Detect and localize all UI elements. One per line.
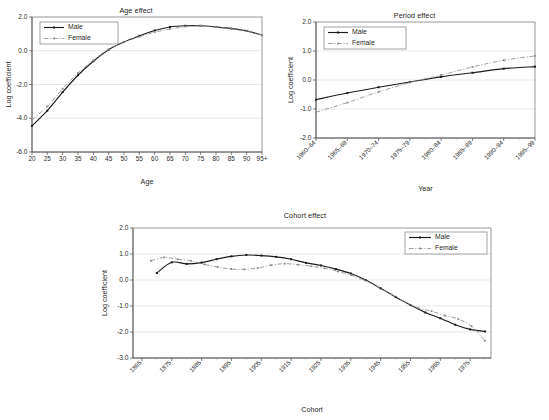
series-line-male (157, 255, 485, 331)
data-point-female (123, 41, 125, 43)
data-point-female (534, 55, 536, 57)
data-point-female (284, 263, 286, 265)
y-tick-label: -3.0 (117, 354, 129, 361)
data-point-female (391, 293, 393, 295)
chart-svg-cohort-effect: 2.01.00.0-1.0-2.0-3.0Log coefficient1865… (95, 205, 505, 420)
data-point-female (444, 315, 446, 317)
y-tick-label: -1.0 (300, 105, 312, 112)
data-point-male (469, 328, 471, 330)
chart-svg-period-effect: 2.01.00.0-1.0-2.0Log coefficient1960–641… (280, 0, 549, 200)
x-tick-label: 70 (182, 155, 190, 162)
data-point-female (484, 340, 486, 342)
legend: MaleFemale (324, 27, 406, 49)
legend-marker-male (53, 27, 55, 29)
data-point-female (163, 256, 165, 258)
x-tick-label: 1905 (247, 358, 262, 373)
legend: MaleFemale (405, 232, 487, 254)
y-tick-label: -4.0 (16, 114, 28, 121)
legend-label-female: Female (435, 244, 458, 251)
y-tick-label: 2.0 (119, 224, 128, 231)
data-point-male (484, 330, 486, 332)
data-point-female (417, 307, 419, 309)
y-tick-label: -2.0 (16, 81, 28, 88)
data-point-male (346, 92, 348, 94)
x-tick-label: 55 (136, 155, 144, 162)
data-point-female (246, 30, 248, 32)
data-point-male (154, 30, 156, 32)
y-tick-label: 0.0 (18, 47, 27, 54)
data-point-male (305, 262, 307, 264)
x-tick-label: 35 (74, 155, 82, 162)
data-point-female (270, 264, 272, 266)
y-tick-label: -6.0 (16, 148, 28, 155)
y-tick-label: 1.0 (302, 47, 311, 54)
x-tick-label: 1960–64 (295, 138, 317, 160)
x-tick-label: 20 (28, 155, 36, 162)
y-tick-label: -1.0 (117, 302, 129, 309)
data-point-male (320, 264, 322, 266)
data-point-female (108, 49, 110, 51)
data-point-female (150, 260, 152, 262)
x-tick-label: 1965 (426, 358, 441, 373)
x-tick-label: 1865 (128, 358, 143, 373)
x-tick-label: 1875 (158, 358, 173, 373)
legend-marker-male (419, 237, 421, 239)
data-point-male (471, 72, 473, 74)
series-line-female (316, 56, 535, 112)
data-point-male (201, 262, 203, 264)
data-point-female (310, 265, 312, 267)
chart-svg-age-effect: 2.00.0-2.0-4.0-6.0Log coefficient2025303… (0, 0, 272, 192)
data-point-female (138, 36, 140, 38)
x-tick-label: 1945 (367, 358, 382, 373)
x-tick-label: 1895 (217, 358, 232, 373)
data-point-female (177, 258, 179, 260)
x-tick-label: 1975–79 (389, 138, 411, 160)
data-point-female (457, 318, 459, 320)
data-point-male (216, 258, 218, 260)
x-tick-label: 1955 (396, 358, 411, 373)
x-axis-title: Age (141, 177, 154, 186)
data-point-female (46, 106, 48, 108)
x-tick-label: 1990–94 (482, 138, 504, 160)
chart-title-period-effect: Period effect (280, 11, 549, 20)
data-point-male (454, 324, 456, 326)
data-point-female (364, 280, 366, 282)
series-line-male (316, 67, 535, 100)
data-point-female (440, 74, 442, 76)
data-point-female (503, 59, 505, 61)
legend-label-male: Male (435, 233, 450, 240)
data-point-female (244, 268, 246, 270)
x-tick-label: 1935 (337, 358, 352, 373)
data-point-female (261, 34, 263, 36)
x-tick-label: 80 (212, 155, 220, 162)
data-point-male (171, 261, 173, 263)
gridlines (316, 51, 535, 109)
legend-label-male: Male (352, 28, 367, 35)
y-tick-label: 1.0 (119, 250, 128, 257)
data-point-female (409, 82, 411, 84)
x-tick-label: 1980–84 (420, 138, 442, 160)
data-point-male (439, 317, 441, 319)
series-group (315, 55, 536, 113)
data-point-male (290, 258, 292, 260)
data-point-female (377, 286, 379, 288)
data-point-male (169, 26, 171, 28)
x-tick-label: 1995–99 (514, 138, 536, 160)
y-axis-title: Log coefficient (286, 57, 295, 103)
x-axis: 20253035404550556065707580859095+ (28, 152, 267, 162)
data-point-female (324, 267, 326, 269)
x-tick-label: 60 (151, 155, 159, 162)
x-tick-label: 1885 (188, 358, 203, 373)
legend-label-female: Female (352, 39, 375, 46)
y-axis: 2.01.00.0-1.0-2.0-3.0 (117, 224, 133, 361)
data-point-male (245, 254, 247, 256)
legend-marker-female (53, 38, 55, 40)
y-tick-label: 0.0 (119, 276, 128, 283)
legend: MaleFemale (40, 22, 118, 44)
x-axis: 1960–641965–691970–741975–791980–841985–… (295, 138, 536, 161)
data-point-female (62, 88, 64, 90)
data-point-female (230, 28, 232, 30)
x-tick-label: 1915 (277, 358, 292, 373)
data-point-female (431, 310, 433, 312)
data-point-male (378, 86, 380, 88)
